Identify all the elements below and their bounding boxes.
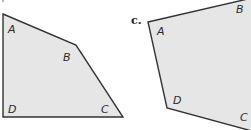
right-quadrilateral <box>148 0 251 130</box>
right-vertex-D-label: D <box>173 94 181 107</box>
left-vertex-B-label: B <box>63 51 71 64</box>
figure-canvas: A B C D c. A B C D <box>0 0 251 130</box>
right-vertex-A-label: A <box>156 25 165 38</box>
stray-mark <box>2 0 4 2</box>
left-quadrilateral <box>3 14 123 117</box>
right-vertex-B-label: B <box>236 3 244 16</box>
left-vertex-C-label: C <box>101 103 109 116</box>
part-label: c. <box>131 14 142 27</box>
right-vertex-C-label: C <box>240 111 248 124</box>
left-vertex-D-label: D <box>8 103 16 116</box>
left-vertex-A-label: A <box>7 23 16 36</box>
